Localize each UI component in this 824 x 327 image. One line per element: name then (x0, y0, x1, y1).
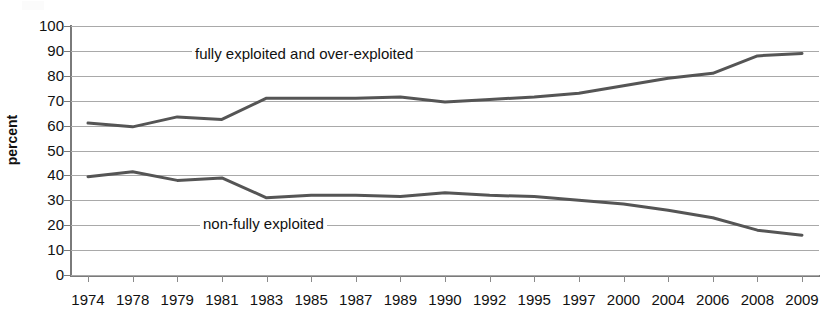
x-tick-mark (445, 276, 446, 282)
x-tick-label: 2008 (741, 292, 774, 308)
x-tick-label: 1992 (473, 292, 506, 308)
y-tick-mark (64, 225, 71, 226)
y-tick-mark (64, 151, 71, 152)
y-tick-label: 0 (18, 267, 64, 282)
x-tick-mark (267, 276, 268, 282)
x-tick-label: 2004 (651, 292, 684, 308)
y-tick-mark (64, 275, 71, 276)
x-tick-label: 1995 (518, 292, 551, 308)
y-tick-label: 20 (18, 217, 64, 232)
x-tick-label: 1989 (384, 292, 417, 308)
series-line-non-fully-exploited (88, 172, 802, 235)
y-tick-label: 30 (18, 192, 64, 207)
x-tick-mark (534, 276, 535, 282)
x-tick-mark (579, 276, 580, 282)
line-chart: percent 1009080706050403020100 197419781… (0, 0, 824, 327)
x-tick-label: 1974 (71, 292, 104, 308)
y-tick-mark (64, 51, 71, 52)
x-tick-mark (713, 276, 714, 282)
x-tick-mark (311, 276, 312, 282)
y-axis-tick-labels: 1009080706050403020100 (18, 0, 64, 327)
y-tick-mark (64, 26, 71, 27)
series-layer (71, 26, 819, 275)
y-tick-label: 50 (18, 143, 64, 158)
y-tick-label: 80 (18, 68, 64, 83)
y-tick-label: 10 (18, 242, 64, 257)
x-tick-label: 2009 (785, 292, 818, 308)
y-tick-mark (64, 101, 71, 102)
x-tick-mark (133, 276, 134, 282)
x-tick-mark (624, 276, 625, 282)
series-line-fully-exploited (88, 53, 802, 126)
x-tick-label: 1981 (205, 292, 238, 308)
x-tick-label: 2000 (607, 292, 640, 308)
plot-area (71, 26, 819, 275)
series-annotation-fully-exploited: fully exploited and over-exploited (192, 46, 416, 62)
y-tick-mark (64, 200, 71, 201)
x-tick-mark (490, 276, 491, 282)
x-tick-label: 1983 (250, 292, 283, 308)
y-tick-mark (64, 76, 71, 77)
x-tick-mark (88, 276, 89, 282)
y-tick-label: 40 (18, 167, 64, 182)
y-tick-mark (64, 250, 71, 251)
series-annotation-non-fully-exploited: non-fully exploited (200, 216, 327, 232)
y-tick-mark (64, 175, 71, 176)
x-tick-mark (400, 276, 401, 282)
x-tick-mark (668, 276, 669, 282)
x-tick-mark (222, 276, 223, 282)
x-tick-label: 1997 (562, 292, 595, 308)
y-tick-label: 70 (18, 93, 64, 108)
x-tick-label: 1979 (161, 292, 194, 308)
y-tick-label: 100 (18, 18, 64, 33)
x-tick-label: 1985 (294, 292, 327, 308)
x-tick-mark (802, 276, 803, 282)
x-tick-label: 1987 (339, 292, 372, 308)
y-tick-label: 90 (18, 43, 64, 58)
x-tick-mark (356, 276, 357, 282)
y-tick-mark (64, 126, 71, 127)
x-tick-mark (177, 276, 178, 282)
x-tick-label: 1978 (116, 292, 149, 308)
x-tick-label: 2006 (696, 292, 729, 308)
x-tick-mark (757, 276, 758, 282)
y-tick-label: 60 (18, 118, 64, 133)
x-tick-label: 1990 (428, 292, 461, 308)
